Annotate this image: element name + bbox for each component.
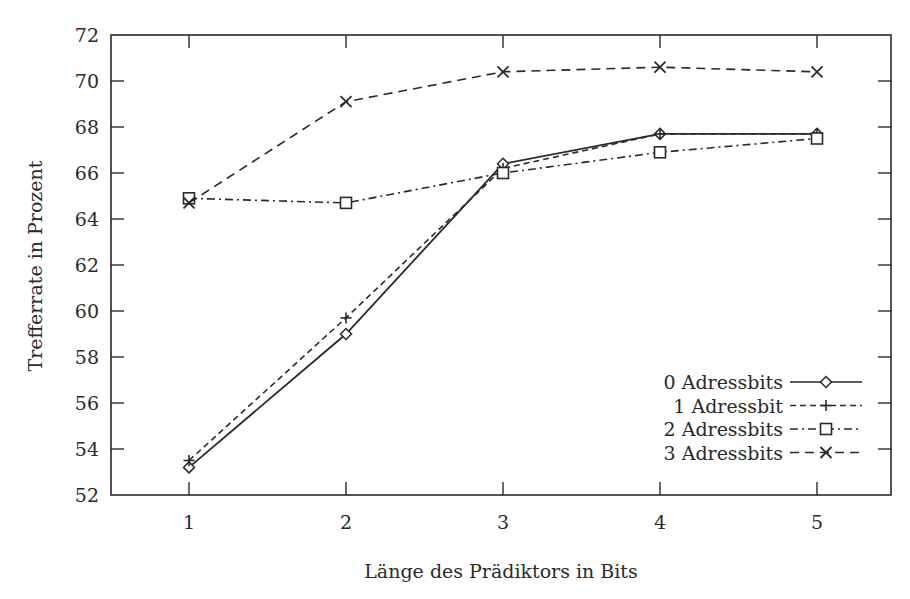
- y-tick-label: 58: [75, 346, 99, 368]
- y-tick-label: 70: [75, 70, 99, 92]
- legend-item: 2 Adressbits: [664, 418, 862, 440]
- y-tick-label: 52: [75, 484, 99, 506]
- diamond-marker: [821, 377, 832, 388]
- y-tick-label: 66: [75, 162, 99, 184]
- legend-item: 3 Adressbits: [664, 442, 862, 464]
- square-marker: [498, 168, 509, 179]
- square-marker: [821, 424, 832, 435]
- legend: 0 Adressbits1 Adressbit2 Adressbits3 Adr…: [664, 371, 862, 464]
- y-tick-label: 68: [75, 116, 99, 138]
- legend-label: 2 Adressbits: [664, 418, 783, 440]
- x-axis-label: Länge des Prädiktors in Bits: [364, 560, 638, 582]
- square-marker: [812, 133, 823, 144]
- plus-marker: [341, 312, 352, 323]
- square-marker: [341, 197, 352, 208]
- legend-label: 3 Adressbits: [664, 442, 783, 464]
- plus-marker: [821, 400, 832, 411]
- y-tick-label: 60: [75, 300, 99, 322]
- square-marker: [655, 147, 666, 158]
- legend-item: 0 Adressbits: [664, 371, 862, 393]
- line-chart: 5254565860626466687072 12345 Länge des P…: [0, 0, 910, 599]
- x-tick-label: 1: [183, 511, 195, 533]
- x-tick-label: 3: [497, 511, 509, 533]
- y-tick-label: 54: [75, 438, 99, 460]
- y-tick-label: 64: [75, 208, 99, 230]
- legend-label: 1 Adressbit: [673, 395, 783, 417]
- cross-marker: [341, 96, 352, 107]
- y-axis-label: Trefferrate in Prozent: [24, 160, 46, 371]
- y-tick-label: 62: [75, 254, 99, 276]
- legend-label: 0 Adressbits: [664, 371, 783, 393]
- y-tick-label: 56: [75, 392, 99, 414]
- series-line: [189, 67, 817, 203]
- y-tick-label: 72: [75, 24, 99, 46]
- plus-marker: [655, 128, 666, 139]
- x-tick-label: 2: [340, 511, 352, 533]
- legend-item: 1 Adressbit: [673, 395, 862, 417]
- x-tick-label: 5: [811, 511, 823, 533]
- cross-marker: [812, 66, 823, 77]
- x-tick-label: 4: [654, 511, 666, 533]
- series-3-adressbits: [184, 62, 823, 209]
